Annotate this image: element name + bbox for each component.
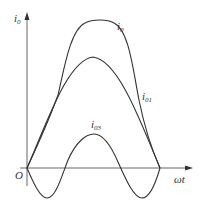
- x-axis-label: ωt: [174, 173, 186, 185]
- curve-i0-label: i0: [117, 20, 124, 34]
- origin-label: O: [15, 169, 23, 181]
- x-axis: [20, 166, 193, 171]
- y-axis-arrow-icon: [25, 12, 30, 20]
- curve-i0: [27, 20, 160, 168]
- curve-i03-label: i03: [91, 118, 102, 132]
- x-axis-arrow-icon: [185, 166, 193, 171]
- curve-i03: [27, 134, 160, 198]
- y-axis: [25, 12, 30, 186]
- y-axis-label: i0: [14, 12, 21, 26]
- curve-i01: [27, 57, 160, 168]
- waveform-diagram: i0 i0 i01 i03 O ωt: [0, 0, 202, 210]
- curve-i01-label: i01: [142, 90, 152, 104]
